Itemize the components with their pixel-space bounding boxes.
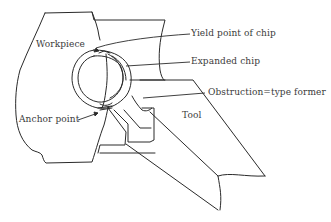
expanded-chip-outer <box>72 50 131 108</box>
workpiece-outline <box>16 12 108 163</box>
chip-back-curl <box>108 54 126 98</box>
label-expanded-chip: Expanded chip <box>191 57 260 66</box>
expanded-chip-inner <box>78 56 123 102</box>
leader-expanded-chip <box>126 62 190 66</box>
tool-side-face <box>150 112 221 210</box>
label-tool: Tool <box>182 111 201 120</box>
former-block <box>114 108 154 142</box>
leader-obstruction-former <box>143 93 205 98</box>
arrowhead-yield <box>94 48 99 52</box>
chip-root <box>98 103 112 110</box>
label-yield-point: Yield point of chip <box>191 29 276 38</box>
chip-former-diagram <box>0 0 331 222</box>
obstruction-former <box>130 80 165 111</box>
arrowhead-anchor <box>94 112 98 116</box>
label-workpiece: Workpiece <box>36 40 85 49</box>
label-anchor-point: Anchor point <box>19 115 79 124</box>
chip-shear-line <box>102 54 107 108</box>
label-obstruction-former: Obstruction=type former <box>208 88 326 97</box>
leader-yield-point <box>96 34 190 48</box>
tool-tip-end <box>218 174 265 176</box>
